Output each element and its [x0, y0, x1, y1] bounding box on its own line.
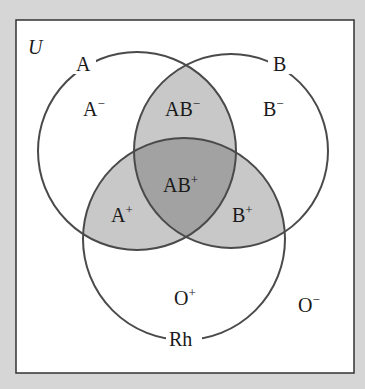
universe-label: U: [28, 36, 44, 58]
set-label-a: A: [76, 53, 91, 75]
set-label-rh: Rh: [169, 328, 192, 350]
venn-diagram-figure: U A B Rh A− AB− B− AB+ A+ B+ O+ O−: [0, 0, 365, 389]
venn-diagram: U A B Rh A− AB− B− AB+ A+ B+ O+ O−: [0, 0, 365, 389]
set-label-b: B: [273, 53, 286, 75]
